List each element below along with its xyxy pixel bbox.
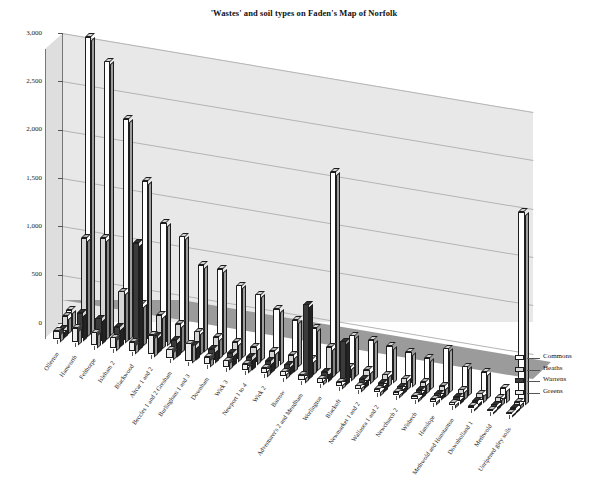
- bar-side: [242, 285, 246, 358]
- y-axis-tick: [58, 275, 63, 276]
- x-axis-label-text: Barrow: [269, 388, 286, 407]
- bar-face: [72, 328, 78, 342]
- y-axis-tick-label: 1,000: [8, 222, 42, 230]
- bar: [91, 332, 97, 345]
- bar-side: [525, 212, 529, 406]
- x-axis-label-text: Ollerton: [42, 350, 60, 371]
- y-axis-line-front: [45, 49, 46, 339]
- bar-side: [139, 243, 143, 351]
- y-axis-tick: [58, 130, 63, 131]
- bar-side: [106, 238, 110, 341]
- x-axis-tick: [283, 378, 284, 382]
- legend-leader-line: [527, 393, 540, 394]
- bar-side: [351, 366, 355, 381]
- chart-container: 'Wastes' and soil types on Faden's Map o…: [0, 0, 608, 494]
- bar-face: [242, 364, 248, 370]
- bar: [518, 212, 524, 402]
- bar-face: [303, 304, 309, 376]
- bar-side: [91, 37, 95, 333]
- bar: [449, 402, 455, 405]
- x-axis-label-text: Newchurch 2: [373, 407, 398, 439]
- y-axis-tick-label: 500: [8, 270, 42, 278]
- bar: [53, 331, 59, 339]
- legend-swatch: [515, 355, 524, 360]
- legend-swatch: [515, 390, 524, 395]
- bar: [506, 413, 512, 415]
- bar-face: [133, 243, 139, 347]
- bar: [303, 304, 309, 376]
- bar: [468, 406, 474, 408]
- y-axis-tick: [58, 81, 63, 82]
- bar-top: [500, 384, 510, 388]
- plot-left-wall: [45, 33, 63, 363]
- legend-leader-line: [527, 381, 540, 382]
- x-axis-label-text: Blackoft: [324, 397, 342, 419]
- x-axis-label-text: Wisbech: [399, 410, 417, 432]
- x-axis-label-text: Wick 3: [213, 379, 229, 398]
- legend-swatch: [515, 367, 524, 372]
- bar-side: [167, 222, 171, 345]
- bar: [340, 341, 346, 382]
- bar-face: [110, 337, 116, 348]
- bar: [298, 375, 304, 380]
- y-axis-tick-label: 2,000: [8, 125, 42, 133]
- x-axis-tick: [57, 340, 58, 344]
- y-axis-tick-label: 0: [8, 319, 42, 327]
- bar-face: [374, 389, 380, 393]
- bar-side: [110, 61, 114, 336]
- y-axis-tick: [58, 226, 63, 227]
- bar: [110, 337, 116, 348]
- bar-side: [426, 382, 430, 394]
- bar-face: [317, 378, 323, 382]
- bar: [242, 364, 248, 370]
- bar-side: [87, 238, 91, 337]
- x-axis-label-text: Blackwood: [113, 363, 135, 391]
- x-axis-tick: [170, 359, 171, 363]
- bar-face: [430, 399, 436, 402]
- y-axis-tick-label: 1,500: [8, 174, 42, 182]
- bar-face: [91, 332, 97, 345]
- y-axis-tick: [58, 33, 63, 34]
- bar-side: [148, 181, 152, 343]
- x-axis-label-text: Felthorpe: [78, 356, 98, 380]
- bar: [166, 349, 172, 357]
- bar: [72, 328, 78, 342]
- bar: [317, 378, 323, 382]
- bar-side: [430, 358, 434, 391]
- y-axis-tick-label: 3,000: [8, 29, 42, 37]
- bar: [336, 382, 342, 386]
- bar: [411, 396, 417, 399]
- x-axis-tick: [415, 400, 416, 404]
- legend-label: Commons: [543, 352, 572, 360]
- chart-title: 'Wastes' and soil types on Faden's Map o…: [0, 8, 608, 18]
- legend-label: Greens: [543, 387, 563, 395]
- bar-side: [238, 342, 242, 363]
- bar-side: [449, 348, 453, 393]
- legend-label: Heaths: [543, 364, 562, 372]
- bar-face: [468, 406, 474, 408]
- x-axis-label-text: Adventurer's 2 and Mendham: [256, 391, 305, 456]
- x-axis-label-text: Hanworth: [58, 353, 78, 378]
- legend-label: Warrens: [543, 375, 566, 383]
- bar: [223, 360, 229, 367]
- bar-face: [340, 341, 346, 382]
- bar-side: [506, 388, 510, 403]
- bar-face: [393, 392, 399, 395]
- bar-side: [280, 309, 284, 365]
- legend-leader-line: [527, 370, 540, 371]
- x-axis-label-text: Beccles 1 and 2 Gresham: [130, 369, 172, 425]
- x-axis-label-text: Isleham 2: [96, 360, 116, 384]
- y-axis-tick: [58, 178, 63, 179]
- x-axis-label-text: Worlington: [301, 394, 323, 421]
- bar: [133, 243, 139, 347]
- legend-leader-line: [527, 358, 540, 359]
- bar: [393, 392, 399, 395]
- bar-side: [294, 355, 298, 372]
- bar-face: [53, 331, 59, 339]
- bar: [280, 371, 286, 376]
- bar-side: [309, 304, 313, 379]
- bar-side: [355, 335, 359, 377]
- legend-swatch: [515, 378, 524, 383]
- bar-face: [261, 368, 267, 374]
- x-axis-label-text: Hanslope: [417, 413, 436, 437]
